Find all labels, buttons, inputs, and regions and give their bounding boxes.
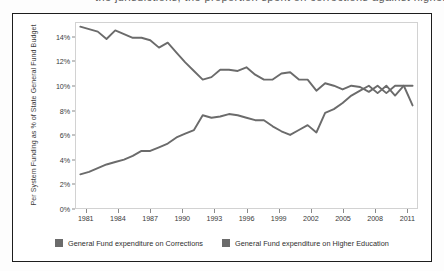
x-tick-mark — [86, 209, 87, 213]
y-tick-label: 2% — [60, 180, 70, 189]
y-tick-label: 12% — [56, 57, 70, 66]
y-tick-label: 8% — [60, 106, 70, 115]
x-tick-label: 2011 — [400, 214, 415, 223]
y-tick-label: 6% — [60, 131, 70, 140]
series-line — [80, 86, 412, 175]
legend-label: General Fund expenditure on Higher Educa… — [235, 239, 389, 248]
clipped-header-text: the jurisdictions, the proportion spent … — [0, 0, 444, 11]
x-tick-label: 2005 — [335, 214, 351, 223]
y-tick-label: 14% — [56, 32, 70, 41]
y-axis-title: Per System Funding as % of State General… — [30, 22, 42, 208]
figure-page: the jurisdictions, the proportion spent … — [0, 0, 444, 271]
x-tick-label: 1984 — [110, 214, 126, 223]
x-tick-label: 1999 — [271, 214, 287, 223]
x-tick-mark — [279, 209, 280, 213]
x-tick-mark — [343, 209, 344, 213]
x-tick-mark — [182, 209, 183, 213]
y-tick-label: 10% — [56, 81, 70, 90]
x-tick-mark — [311, 209, 312, 213]
x-tick-mark — [150, 209, 151, 213]
legend-swatch-icon — [222, 239, 230, 247]
x-tick-label: 1993 — [207, 214, 223, 223]
legend-swatch-icon — [55, 239, 63, 247]
series-line — [80, 27, 412, 106]
plot-lines — [76, 23, 419, 210]
x-tick-label: 1996 — [239, 214, 255, 223]
x-tick-label: 1981 — [78, 214, 94, 223]
y-axis-ticks: 0%2%4%6%8%10%12%14% — [46, 22, 75, 209]
x-tick-mark — [375, 209, 376, 213]
x-tick-mark — [407, 209, 408, 213]
y-tick-label: 4% — [60, 155, 70, 164]
x-tick-label: 1987 — [142, 214, 158, 223]
x-axis-ticks: 1981198419871990199319961999200220052008… — [75, 209, 418, 229]
plot-area — [75, 22, 418, 209]
x-tick-label: 1990 — [174, 214, 190, 223]
chart-legend: General Fund expenditure on CorrectionsG… — [22, 236, 422, 252]
x-tick-label: 2008 — [367, 214, 383, 223]
legend-item: General Fund expenditure on Higher Educa… — [222, 236, 389, 250]
y-tick-label: 0% — [60, 205, 70, 214]
x-tick-mark — [247, 209, 248, 213]
legend-label: General Fund expenditure on Corrections — [68, 239, 203, 248]
x-tick-mark — [118, 209, 119, 213]
x-tick-label: 2002 — [303, 214, 319, 223]
x-tick-mark — [214, 209, 215, 213]
legend-item: General Fund expenditure on Corrections — [55, 236, 203, 250]
